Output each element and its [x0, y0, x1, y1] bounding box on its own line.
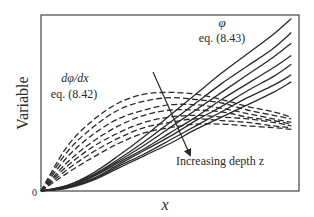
origin-label: 0: [32, 187, 37, 198]
phi-symbol-label: φ: [218, 15, 225, 30]
dphidx-curve: [41, 110, 291, 191]
dphi-symbol-label: dφ/dx: [61, 71, 89, 85]
chart: φ eq. (8.43) dφ/dx eq. (8.42) Increasing…: [0, 0, 314, 217]
arrow-label: Increasing depth z: [176, 154, 264, 168]
y-axis-label: Variable: [14, 76, 31, 129]
dphi-eq-label: eq. (8.42): [51, 87, 97, 101]
x-axis-label: x: [160, 196, 168, 213]
dphidx-curve: [41, 98, 291, 191]
phi-eq-label: eq. (8.43): [199, 31, 245, 45]
